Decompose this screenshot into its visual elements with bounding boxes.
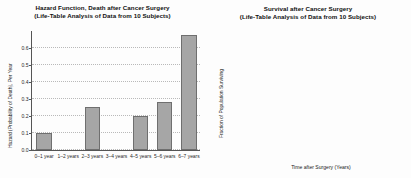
hazard-bar <box>157 102 172 150</box>
survival-y-axis-label: Fraction of Population Surviving <box>219 69 224 138</box>
hazard-y-axis-label: Hazard (Probability of Death), Per Year <box>8 63 13 148</box>
hazard-gridline <box>32 64 200 65</box>
hazard-y-tick: 0.1 <box>21 130 32 136</box>
hazard-bar <box>181 35 196 150</box>
hazard-x-tick: 5–6 years <box>154 154 175 159</box>
hazard-gridline <box>32 81 200 82</box>
hazard-y-tick: 0.6 <box>21 45 32 51</box>
survival-x-axis-label: Time after Surgery (Years) <box>237 164 405 170</box>
hazard-bar <box>36 133 51 150</box>
hazard-x-tick: 0–1 year <box>35 154 54 159</box>
survival-title-line2: (Life-Table Analysis of Data from 10 Sub… <box>205 13 411 21</box>
hazard-y-tick: 0.4 <box>21 79 32 85</box>
hazard-gridline <box>32 115 200 116</box>
hazard-title-line1: Hazard Function, Death after Cancer Surg… <box>0 4 205 12</box>
hazard-bar <box>133 116 148 150</box>
hazard-gridline <box>32 149 200 150</box>
hazard-gridline <box>32 132 200 133</box>
survival-chart-title: Survival after Cancer Surgery (Life-Tabl… <box>205 5 411 21</box>
hazard-y-tick: 0.5 <box>21 62 32 68</box>
hazard-chart-title: Hazard Function, Death after Cancer Surg… <box>0 4 205 20</box>
hazard-plot-area: 0.00.10.20.30.40.50.60–1 year1–2 years2–… <box>31 31 200 151</box>
hazard-y-tick: 0.0 <box>21 147 32 153</box>
hazard-x-tick: 2–3 years <box>82 154 103 159</box>
figure-canvas: Hazard Function, Death after Cancer Surg… <box>0 0 411 178</box>
hazard-x-tick: 3–4 years <box>106 154 127 159</box>
survival-title-line1: Survival after Cancer Surgery <box>205 5 411 13</box>
survival-chart-panel: Survival after Cancer Surgery (Life-Tabl… <box>205 0 411 178</box>
hazard-x-tick: 1–2 years <box>57 154 78 159</box>
hazard-chart-panel: Hazard Function, Death after Cancer Surg… <box>0 0 205 178</box>
hazard-gridline <box>32 98 200 99</box>
hazard-y-tick: 0.3 <box>21 96 32 102</box>
hazard-gridline <box>32 47 200 48</box>
hazard-bar <box>85 107 100 150</box>
hazard-x-tick: 4–5 years <box>130 154 151 159</box>
hazard-x-tick: 6–7 years <box>178 154 199 159</box>
hazard-title-line2: (Life-Table Analysis of Data from 10 Sub… <box>0 12 205 20</box>
hazard-y-tick: 0.2 <box>21 113 32 119</box>
